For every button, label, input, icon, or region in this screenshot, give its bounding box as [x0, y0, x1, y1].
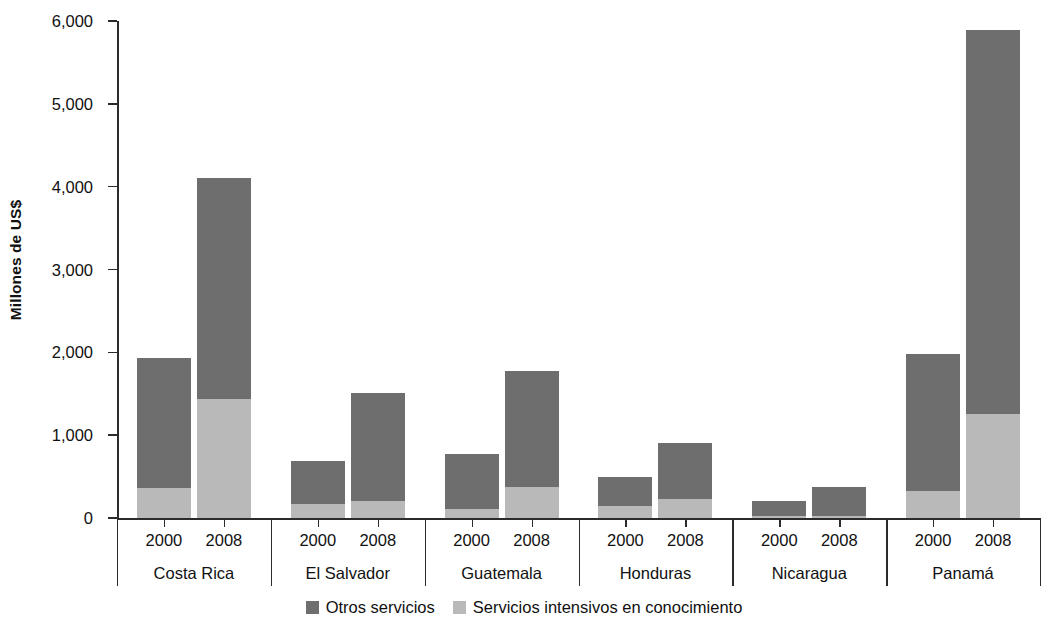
x-axis-group-label: Nicaragua — [772, 564, 847, 583]
x-axis-group-label: Costa Rica — [154, 564, 235, 583]
y-axis-tick — [108, 269, 117, 271]
x-axis-year-label: 2000 — [146, 531, 183, 550]
x-axis-year-label: 2008 — [667, 531, 704, 550]
bar-nicaragua-2000 — [752, 501, 806, 518]
y-axis-tick — [108, 517, 117, 519]
bar-segment-servicios-intensivos — [505, 487, 559, 518]
bar-segment-servicios-intensivos — [598, 506, 652, 518]
bar-segment-otros-servicios — [658, 443, 712, 498]
y-axis-tick — [108, 103, 117, 105]
bar-segment-otros-servicios — [351, 393, 405, 502]
stacked-bar-chart: Millones de US$ 01,0002,0003,0004,0005,0… — [0, 0, 1048, 627]
x-axis-year-label: 2008 — [821, 531, 858, 550]
bar-segment-servicios-intensivos — [197, 399, 251, 518]
bar-segment-servicios-intensivos — [445, 509, 499, 518]
chart-legend: Otros serviciosServicios intensivos en c… — [0, 598, 1048, 617]
bar-segment-otros-servicios — [505, 371, 559, 488]
y-axis-tick — [108, 352, 117, 354]
y-axis-tick-label: 4,000 — [52, 177, 93, 196]
x-axis-year-label: 2000 — [299, 531, 336, 550]
legend-item: Otros servicios — [306, 598, 435, 617]
y-axis-tick-label: 1,000 — [52, 426, 93, 445]
legend-label: Servicios intensivos en conocimiento — [473, 598, 743, 617]
bar-segment-otros-servicios — [137, 358, 191, 488]
plot-area — [117, 21, 1040, 518]
bar-panamá-2000 — [906, 354, 960, 518]
bar-panamá-2008 — [966, 30, 1020, 518]
bar-nicaragua-2008 — [812, 487, 866, 518]
y-axis-tick-label: 6,000 — [52, 12, 93, 31]
group-separator-outer — [1040, 518, 1041, 586]
x-axis-year-label: 2000 — [607, 531, 644, 550]
y-axis-tick-label: 2,000 — [52, 343, 93, 362]
bar-segment-servicios-intensivos — [966, 414, 1020, 518]
x-axis-group-label: Panamá — [932, 564, 993, 583]
bar-costa-rica-2008 — [197, 178, 251, 518]
y-axis-tick-label: 3,000 — [52, 260, 93, 279]
bar-segment-servicios-intensivos — [351, 501, 405, 518]
bar-segment-otros-servicios — [445, 454, 499, 509]
bar-segment-servicios-intensivos — [137, 488, 191, 518]
bar-segment-servicios-intensivos — [906, 491, 960, 518]
y-axis-tick — [108, 20, 117, 22]
bar-guatemala-2000 — [445, 454, 499, 518]
bar-segment-otros-servicios — [812, 487, 866, 516]
legend-label: Otros servicios — [326, 598, 435, 617]
y-axis-line — [117, 21, 119, 518]
x-axis-group-label: Honduras — [620, 564, 692, 583]
bar-costa-rica-2000 — [137, 358, 191, 518]
x-axis-year-label: 2000 — [761, 531, 798, 550]
bar-segment-otros-servicios — [966, 30, 1020, 414]
bar-el-salvador-2000 — [291, 461, 345, 518]
y-axis-tick — [108, 186, 117, 188]
bar-segment-otros-servicios — [291, 461, 345, 504]
bar-honduras-2000 — [598, 477, 652, 518]
x-axis-group-label: Guatemala — [461, 564, 542, 583]
legend-item: Servicios intensivos en conocimiento — [453, 598, 743, 617]
bar-segment-otros-servicios — [906, 354, 960, 491]
x-axis-group-label: El Salvador — [306, 564, 390, 583]
bar-guatemala-2008 — [505, 371, 559, 518]
legend-swatch-icon — [453, 601, 466, 614]
y-axis-tick-labels: 01,0002,0003,0004,0005,0006,000 — [0, 21, 105, 518]
bar-segment-otros-servicios — [598, 477, 652, 506]
bar-el-salvador-2008 — [351, 393, 405, 518]
bar-segment-servicios-intensivos — [291, 504, 345, 518]
x-axis-year-label: 2008 — [513, 531, 550, 550]
bar-honduras-2008 — [658, 443, 712, 518]
x-axis-year-label: 2008 — [975, 531, 1012, 550]
legend-swatch-icon — [306, 601, 319, 614]
bar-segment-otros-servicios — [752, 501, 806, 516]
y-axis-tick — [108, 434, 117, 436]
x-axis-year-label: 2008 — [206, 531, 243, 550]
bar-segment-servicios-intensivos — [658, 499, 712, 518]
y-axis-tick-label: 5,000 — [52, 94, 93, 113]
x-axis-year-label: 2000 — [915, 531, 952, 550]
y-axis-tick-label: 0 — [84, 509, 93, 528]
x-axis-labels: 20002008Costa Rica20002008El Salvador200… — [117, 519, 1040, 589]
x-axis-year-label: 2000 — [453, 531, 490, 550]
x-axis-year-label: 2008 — [359, 531, 396, 550]
bar-segment-otros-servicios — [197, 178, 251, 398]
